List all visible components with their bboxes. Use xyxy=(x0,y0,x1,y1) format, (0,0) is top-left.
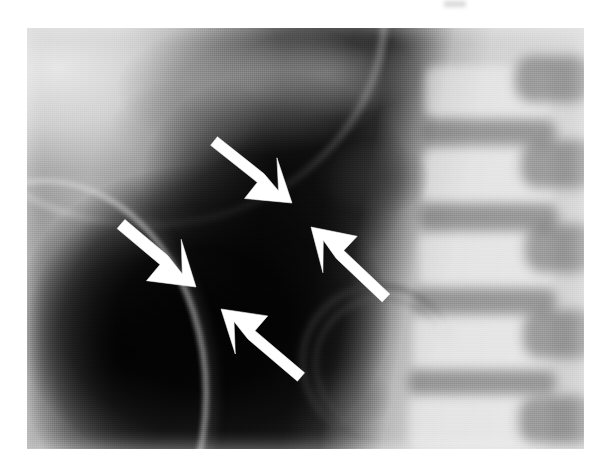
film-grain-overlay xyxy=(27,28,584,449)
figure-root xyxy=(0,0,603,473)
scan-artifact xyxy=(444,1,466,7)
radiograph-image xyxy=(27,28,584,449)
